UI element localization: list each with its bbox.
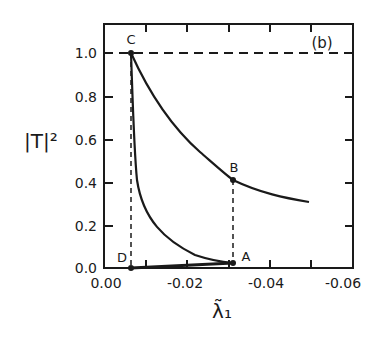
x-ticks-top [146,24,311,32]
point-label-d: D [117,250,127,265]
upper-branch-curve [131,53,309,202]
y-tick-label: 0.6 [75,132,97,148]
x-tick-label: -0.02 [167,275,203,291]
y-ticks-left [104,53,113,268]
point-b [230,177,236,183]
x-tick-label: 0.00 [90,275,121,291]
x-tick-label: -0.06 [325,275,361,291]
point-label-a: A [242,249,251,264]
y-axis-label: |T|² [24,129,58,153]
x-axis-label: λ̃₁ [212,298,232,323]
y-tick-label: 0.2 [75,218,97,234]
plot-frame [104,24,353,268]
point-c [128,50,134,56]
y-tick-label: 1.0 [75,45,97,61]
x-tick-label: -0.04 [248,275,284,291]
point-label-c: C [126,32,135,47]
y-tick-label: 0.8 [75,89,97,105]
y-tick-label: 0.4 [75,175,97,191]
point-label-b: B [230,160,239,175]
y-ticks-right [345,53,353,226]
panel-label: (b) [311,34,332,52]
point-d [128,265,134,271]
point-a [230,260,236,266]
y-tick-label: 0.0 [75,260,97,276]
chart: 0.0 0.2 0.4 0.6 0.8 1.0 0.00 -0.02 -0.04… [0,0,380,339]
